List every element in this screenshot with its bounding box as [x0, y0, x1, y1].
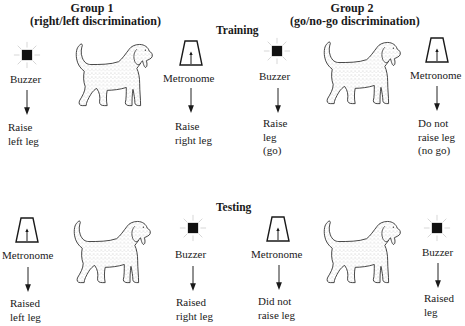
testing-g1-left-stimulus: Metronome	[2, 249, 53, 262]
buzzer-icon	[263, 37, 291, 65]
training-g1-right-stimulus: Metronome	[163, 72, 214, 85]
arrow-down-icon	[188, 266, 198, 291]
dog-icon	[316, 218, 402, 288]
testing-g2-left-response: Did not raise leg	[258, 295, 295, 322]
dog-icon	[316, 38, 402, 110]
buzzer-icon	[179, 214, 207, 242]
buzzer-icon	[423, 214, 451, 242]
dog-icon	[66, 218, 152, 288]
group2-header: Group 2 (go/no-go discrimination)	[290, 2, 414, 28]
testing-heading: Testing	[216, 201, 251, 213]
metronome-icon	[15, 217, 39, 243]
metronome-icon	[266, 216, 290, 242]
training-g2-left-response: Raise leg (go)	[263, 117, 287, 158]
group1-header: Group 1 (right/left discrimination)	[30, 2, 154, 28]
training-g2-left-stimulus: Buzzer	[259, 70, 290, 83]
buzzer-icon	[13, 41, 41, 69]
testing-g2-right-stimulus: Buzzer	[422, 246, 453, 259]
testing-g1-left-response: Raised left leg	[10, 297, 41, 324]
group2-subtitle: (go/no-go discrimination)	[290, 15, 414, 28]
metronome-icon	[425, 37, 449, 63]
training-g2-right-response: Do not raise leg (no go)	[418, 117, 455, 158]
arrow-down-icon	[433, 263, 443, 288]
testing-g1-right-stimulus: Buzzer	[175, 248, 206, 261]
training-g1-left-stimulus: Buzzer	[10, 73, 41, 86]
training-g1-right-response: Raise right leg	[175, 120, 212, 147]
arrow-down-icon	[273, 88, 283, 113]
testing-g2-left-stimulus: Metronome	[251, 248, 302, 261]
metronome-icon	[179, 40, 203, 66]
testing-g2-right-response: Raised leg	[424, 292, 454, 319]
training-g1-left-response: Raise left leg	[8, 121, 39, 148]
dog-icon	[68, 40, 154, 112]
arrow-down-icon	[274, 265, 284, 290]
arrow-down-icon	[22, 90, 32, 115]
testing-g1-right-response: Raised right leg	[176, 296, 213, 323]
arrow-down-icon	[432, 86, 442, 111]
training-g2-right-stimulus: Metronome	[410, 69, 461, 82]
training-heading: Training	[216, 24, 259, 36]
arrow-down-icon	[186, 88, 196, 113]
group1-subtitle: (right/left discrimination)	[30, 15, 154, 28]
arrow-down-icon	[23, 267, 33, 292]
